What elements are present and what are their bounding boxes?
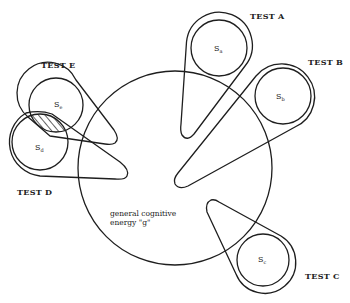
test-label-c: TEST C xyxy=(305,271,340,281)
test-d-shape xyxy=(9,112,127,179)
general-cognitive-energy-circle xyxy=(78,71,272,265)
g-factor-diagram: Sa Sb Sc Sd Se TEST A TEST B TEST C TEST… xyxy=(0,0,350,303)
factor-label-d: Sd xyxy=(35,143,44,153)
factor-label-b: Sb xyxy=(276,92,285,102)
test-label-d: TEST D xyxy=(17,187,52,197)
test-label-b: TEST B xyxy=(308,57,343,67)
test-label-a: TEST A xyxy=(250,11,285,21)
test-label-e: TEST E xyxy=(41,60,75,70)
test-a-shape xyxy=(181,12,253,138)
factor-label-e: Se xyxy=(54,100,62,110)
factor-label-c: Sc xyxy=(258,255,266,265)
factor-label-a: Sa xyxy=(214,44,222,54)
test-b-shape xyxy=(174,64,314,188)
g-label-line1: general cognitive xyxy=(110,209,177,218)
test-c-shape xyxy=(207,200,296,294)
g-label-line2: energy "g" xyxy=(110,218,150,227)
